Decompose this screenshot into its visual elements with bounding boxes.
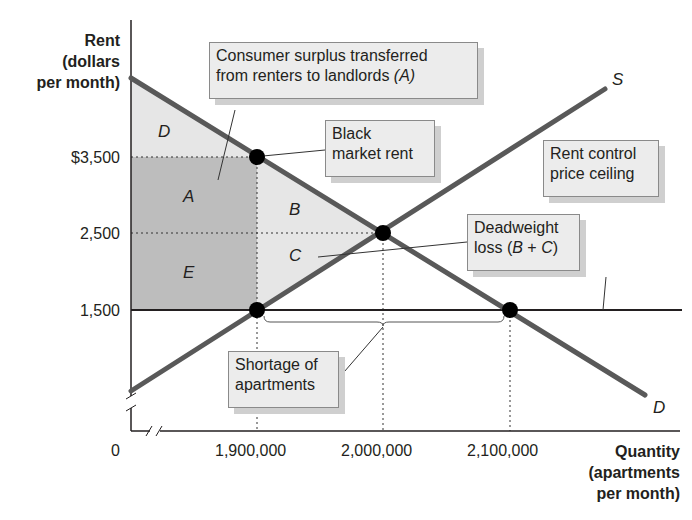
region-bc-fill — [257, 157, 383, 310]
point-equilibrium — [375, 225, 391, 241]
y-axis-title: Rent (dollars per month) — [36, 30, 120, 93]
y-axis-title-line: per month) — [36, 72, 120, 93]
region-ae-fill — [131, 157, 257, 310]
callout-black-market: Black market rent — [325, 120, 435, 177]
callout-text: from renters to landlords — [216, 67, 394, 84]
callout-line: Deadweight — [474, 218, 573, 238]
callout-text-italic: C — [541, 239, 553, 256]
callout-text: + — [523, 239, 541, 256]
point-qd-ceiling — [502, 302, 518, 318]
shortage-bracket — [264, 316, 504, 326]
x-axis-title: Quantity (apartments per month) — [588, 441, 680, 504]
region-d-label: D — [158, 122, 170, 142]
callout-text-italic: (A) — [394, 67, 415, 84]
point-qs-ceiling — [249, 302, 265, 318]
x-axis-title-line: Quantity — [588, 441, 680, 462]
callout-consumer-surplus: Consumer surplus transferred from renter… — [209, 42, 478, 99]
callout-text: loss ( — [474, 239, 512, 256]
y-axis-title-line: (dollars — [36, 51, 120, 72]
callout-shortage: Shortage of apartments — [228, 351, 339, 408]
x-tick-2100000: 2,100,000 — [467, 441, 538, 460]
callout-text: ) — [553, 239, 558, 256]
callout-line: apartments — [235, 375, 332, 395]
demand-label: D — [653, 398, 665, 417]
x-tick-1900000: 1,900,000 — [215, 441, 286, 460]
x-tick-2000000: 2,000,000 — [341, 441, 412, 460]
callout-line: Rent control — [550, 144, 652, 164]
callout-line: Black — [332, 124, 428, 144]
callout-line: Shortage of — [235, 355, 332, 375]
callout-line: market rent — [332, 144, 428, 164]
callout-deadweight-loss: Deadweight loss (B + C) — [467, 214, 580, 271]
callout-line: loss (B + C) — [474, 238, 573, 258]
region-e-label: E — [183, 263, 194, 283]
x-tick-0: 0 — [111, 441, 120, 460]
callout-price-ceiling: Rent control price ceiling — [543, 140, 659, 197]
y-tick-1500: 1,500 — [80, 301, 120, 320]
y-tick-3500: $3,500 — [71, 148, 120, 167]
callout-line: Consumer surplus transferred — [216, 46, 471, 66]
region-a-label: A — [183, 187, 194, 207]
x-axis-title-line: per month) — [588, 483, 680, 504]
region-b-label: B — [289, 200, 300, 220]
callout-text-italic: B — [512, 239, 523, 256]
callout-line: from renters to landlords (A) — [216, 66, 471, 86]
point-black-market — [249, 149, 265, 165]
y-axis-title-line: Rent — [36, 30, 120, 51]
x-axis-title-line: (apartments — [588, 462, 680, 483]
callout-line: price ceiling — [550, 164, 652, 184]
y-tick-2500: 2,500 — [80, 224, 120, 243]
region-c-label: C — [289, 246, 301, 266]
supply-label: S — [612, 70, 623, 89]
